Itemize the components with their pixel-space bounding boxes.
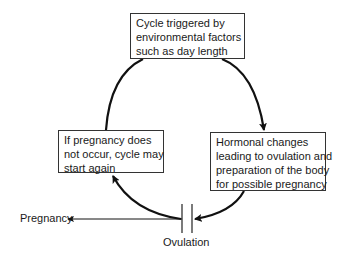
node-text: preparation of the body bbox=[216, 163, 320, 177]
arrow-right-to-ovulation bbox=[195, 191, 244, 219]
node-text: Hormonal changes bbox=[216, 135, 320, 149]
node-text: Cycle triggered by bbox=[136, 16, 239, 30]
reproductive-cycle-diagram: Cycle triggered by environmental factors… bbox=[0, 0, 340, 264]
node-text: such as day length bbox=[136, 44, 239, 58]
node-text: start again bbox=[64, 161, 158, 175]
node-cycle-restart: If pregnancy does not occur, cycle may s… bbox=[58, 130, 164, 173]
node-text: leading to ovulation and bbox=[216, 149, 320, 163]
arrow-top-to-right bbox=[222, 59, 264, 130]
node-text: environmental factors bbox=[136, 30, 239, 44]
node-hormonal-changes: Hormonal changes leading to ovulation an… bbox=[210, 132, 326, 191]
node-text: for possible pregnancy bbox=[216, 177, 320, 191]
node-cycle-trigger: Cycle triggered by environmental factors… bbox=[130, 13, 245, 59]
pregnancy-label: Pregnancy bbox=[20, 212, 73, 225]
node-text: If pregnancy does bbox=[64, 133, 158, 147]
node-text: not occur, cycle may bbox=[64, 147, 158, 161]
ovulation-label: Ovulation bbox=[163, 236, 209, 249]
arrow-ovulation-to-left bbox=[113, 176, 181, 219]
arrow-left-to-top bbox=[106, 59, 143, 130]
